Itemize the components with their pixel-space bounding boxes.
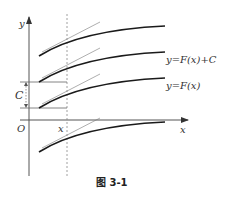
origin-label: O <box>17 123 25 134</box>
curve-3 <box>39 78 165 108</box>
antiderivative-family-diagram: y x O x C y=F(x)+C y=F(x) 图 3-1 <box>0 0 233 197</box>
curve-label-base: y=F(x) <box>165 80 201 91</box>
point-x-label: x <box>58 123 64 134</box>
c-label: C <box>15 89 24 102</box>
tangent-2 <box>42 48 100 78</box>
curve-2 <box>39 52 165 82</box>
tangent-4 <box>42 118 100 148</box>
curve-1 <box>39 26 165 56</box>
tangent-1 <box>42 22 100 52</box>
figure-caption: 图 3-1 <box>96 177 128 188</box>
x-axis-label: x <box>180 124 186 135</box>
tangent-3 <box>42 74 100 104</box>
curve-label-shifted: y=F(x)+C <box>165 54 217 65</box>
y-axis-label: y <box>18 18 25 29</box>
